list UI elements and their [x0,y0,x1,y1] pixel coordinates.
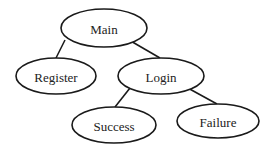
edge-main-login [129,40,160,58]
edge-login-success [115,88,130,107]
node-success-label: Success [93,119,134,134]
tree-diagram: Main Register Login Success Failure [0,0,273,147]
node-main: Main [61,9,147,47]
node-login: Login [118,58,204,94]
node-register-label: Register [34,70,78,85]
node-register: Register [16,58,96,94]
nodes: Main Register Login Success Failure [16,9,259,143]
node-failure-label: Failure [200,115,237,130]
tree-diagram-canvas: Main Register Login Success Failure [0,0,273,147]
edge-main-register [56,40,65,58]
node-success: Success [72,107,156,143]
node-failure: Failure [177,104,259,138]
node-login-label: Login [145,70,177,85]
node-main-label: Main [90,22,118,37]
